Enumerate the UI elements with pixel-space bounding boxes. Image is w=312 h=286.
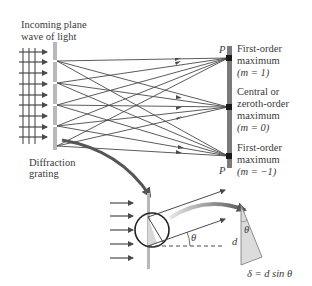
first-order-top-2: maximum [237, 55, 280, 66]
path-difference-triangle [241, 205, 262, 265]
grating-label-1: Diffraction [29, 157, 75, 168]
central-max-2: zeroth-order [237, 98, 289, 109]
diffraction-grating [53, 42, 57, 150]
central-max-1: Central or [237, 86, 279, 97]
theta-angle-label: θ [191, 232, 196, 243]
diffracted-rays [57, 58, 228, 156]
first-order-bottom-3: (m = −1) [237, 166, 276, 177]
diffraction-grating-diagram: Incoming plane wave of light Diffraction… [0, 0, 312, 286]
point-p-top: P [219, 44, 225, 55]
point-p-bottom: P [219, 165, 225, 176]
incoming-wave-label-2: wave of light [21, 31, 76, 42]
first-order-bottom-1: First-order [237, 142, 282, 153]
central-max-3: maximum [237, 110, 280, 121]
theta-triangle-label: θ [244, 224, 249, 235]
first-order-top-3: (m = 1) [237, 67, 269, 78]
first-order-top-1: First-order [237, 43, 282, 54]
inset-incoming-rays [110, 203, 133, 258]
incoming-wave-label-1: Incoming plane [21, 19, 87, 30]
first-order-bottom-2: maximum [237, 154, 280, 165]
central-max-4: (m = 0) [237, 122, 269, 133]
path-difference-label: δ = d sin θ [247, 268, 292, 279]
d-label: d [232, 236, 237, 247]
zoom-arrow [62, 140, 150, 196]
grating-label-2: grating [29, 168, 59, 179]
